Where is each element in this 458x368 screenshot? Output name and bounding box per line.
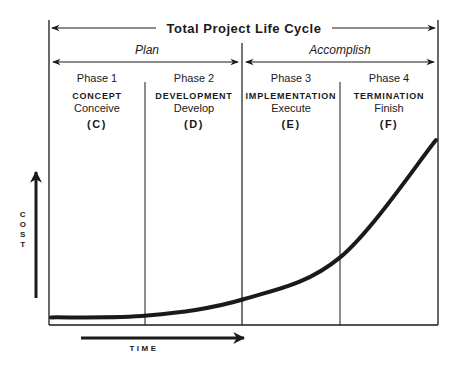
cost-label-letter: T [20,240,27,249]
project-life-cycle-diagram: Total Project Life Cycle Plan Accomplish… [0,0,458,368]
phase-4-number: Phase 4 [369,72,409,84]
phase-4-letter: (F) [380,118,399,130]
phase-2-block: Phase 2 DEVELOPMENT Develop (D) [155,72,232,130]
phase-4-verb: Finish [374,102,403,114]
cost-label-letter: C [20,210,28,219]
phase-2-number: Phase 2 [174,72,214,84]
phase-3-letter: (E) [281,118,300,130]
diagram-title: Total Project Life Cycle [167,21,322,36]
phase-1-block: Phase 1 CONCEPT Conceive (C) [72,72,122,130]
cost-axis-label: C O S T [20,210,29,249]
phase-3-number: Phase 3 [271,72,311,84]
time-axis-label: TIME [129,344,158,353]
cost-curve [51,140,436,317]
phase-2-name: DEVELOPMENT [155,91,232,101]
phase-3-block: Phase 3 IMPLEMENTATION Execute (E) [246,72,337,130]
phase-3-name: IMPLEMENTATION [246,91,337,101]
phase-4-name: TERMINATION [354,91,425,101]
cost-label-letter: O [20,220,29,229]
phase-2-letter: (D) [184,118,204,130]
phase-1-name: CONCEPT [72,91,122,101]
phase-2-verb: Develop [174,102,214,114]
phase-3-verb: Execute [271,102,311,114]
cost-label-letter: S [20,230,28,239]
stage-accomplish-label: Accomplish [308,43,371,57]
phase-1-letter: (C) [87,118,107,130]
stage-plan-label: Plan [135,43,159,57]
phase-4-block: Phase 4 TERMINATION Finish (F) [354,72,425,130]
phase-1-number: Phase 1 [77,72,117,84]
phase-1-verb: Conceive [74,102,120,114]
